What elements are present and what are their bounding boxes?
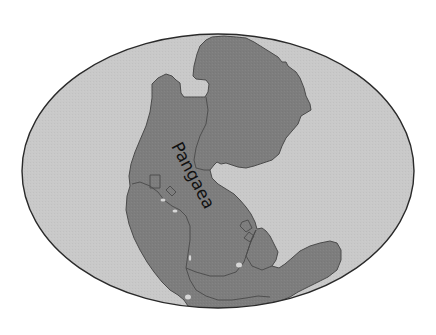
pangaea-map: Pangaea xyxy=(0,0,436,335)
map-canvas: Pangaea xyxy=(0,0,436,335)
